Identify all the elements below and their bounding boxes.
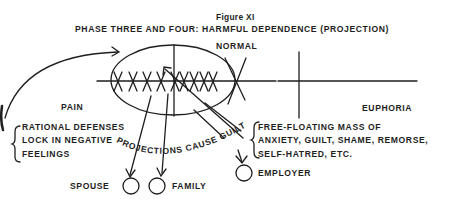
big-x-mark bbox=[225, 58, 245, 100]
figure-label: Figure XI bbox=[216, 13, 255, 21]
employer-label: EMPLOYER bbox=[258, 169, 311, 178]
edge-curve bbox=[1, 106, 3, 130]
euphoria-label: EUPHORIA bbox=[362, 104, 412, 113]
defenses-brace bbox=[12, 126, 20, 162]
family-circle bbox=[149, 178, 165, 194]
defenses-note-line: LOCK IN NEGATIVE bbox=[22, 134, 125, 147]
spouse-circle bbox=[123, 178, 139, 194]
anxiety-note-line: SELF-HATRED, ETC. bbox=[258, 148, 428, 161]
projection-line-spouse bbox=[130, 96, 151, 175]
normal-label: NORMAL bbox=[216, 42, 257, 51]
anxiety-note-line: FREE-FLOATING MASS OF bbox=[258, 121, 428, 134]
figure-title: PHASE THREE AND FOUR: HARMFUL DEPENDENCE… bbox=[75, 25, 389, 34]
defenses-note-line: FEELINGS bbox=[22, 148, 125, 161]
employer-circle bbox=[236, 165, 252, 181]
defenses-note-line: RATIONAL DEFENSES bbox=[22, 121, 125, 134]
pain-ellipse bbox=[111, 45, 235, 115]
pain-label: PAIN bbox=[61, 103, 83, 112]
spouse-label: SPOUSE bbox=[70, 182, 109, 191]
curved-caption: PROJECTIONS CAUSE GUILT bbox=[115, 120, 247, 156]
defenses-note: RATIONAL DEFENSES LOCK IN NEGATIVE FEELI… bbox=[22, 121, 125, 161]
anxiety-note-line: ANXIETY, GUILT, SHAME, REMORSE, bbox=[258, 134, 428, 147]
anxiety-note: FREE-FLOATING MASS OF ANXIETY, GUILT, SH… bbox=[258, 121, 428, 161]
family-label: FAMILY bbox=[172, 182, 206, 191]
projection-line-family bbox=[162, 94, 168, 173]
